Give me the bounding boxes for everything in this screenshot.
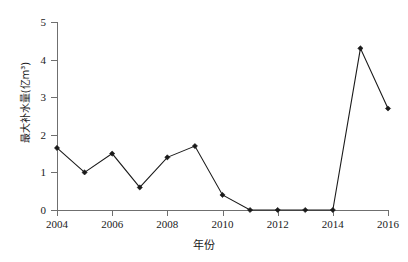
x-tick-mark [223,211,224,216]
chart-container: 012345 2004200620082010201220142016 年份 最… [0,0,408,262]
data-point-marker [82,170,87,175]
x-tick-mark [57,211,58,216]
y-tick-label: 5 [16,17,46,28]
x-tick-mark [167,211,168,216]
x-axis-title: 年份 [0,236,408,252]
y-tick-mark [51,60,57,61]
x-tick-mark [112,211,113,216]
x-tick-label: 2010 [203,218,243,230]
data-point-marker [192,143,197,148]
x-tick-mark [278,211,279,216]
y-tick-mark [51,97,57,98]
data-point-marker [385,106,390,111]
x-tick-label: 2016 [368,218,408,230]
y-axis-title: 最大补水量(亿m³) [17,33,32,173]
x-tick-label: 2006 [92,218,132,230]
y-axis-line [57,22,58,211]
x-tick-label: 2008 [147,218,187,230]
x-tick-mark [333,211,334,216]
x-tick-label: 2014 [313,218,353,230]
x-tick-label: 2012 [258,218,298,230]
x-tick-label: 2004 [37,218,77,230]
data-point-marker [110,151,115,156]
y-tick-mark [51,172,57,173]
data-point-marker [220,192,225,197]
series-markers [54,46,390,213]
data-point-marker [165,155,170,160]
series-line-max-recharge [57,48,388,210]
y-tick-label: 0 [16,205,46,216]
y-tick-mark [51,22,57,23]
data-point-marker [137,185,142,190]
data-point-marker [358,46,363,51]
y-tick-mark [51,135,57,136]
x-tick-mark [388,211,389,216]
